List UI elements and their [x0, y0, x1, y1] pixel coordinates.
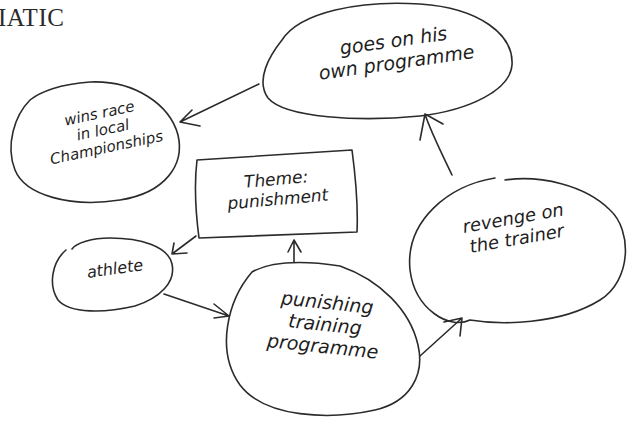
arrow-own-programme-to-wins-race: [180, 84, 259, 126]
node-revenge-shape: [410, 178, 626, 323]
arrow-training-to-theme: [288, 240, 301, 262]
arrow-athlete-to-training: [164, 294, 229, 318]
arrow-revenge-to-own-programme: [420, 114, 452, 175]
arrow-theme-to-athlete: [172, 236, 196, 254]
arrow-training-to-revenge: [420, 318, 462, 356]
